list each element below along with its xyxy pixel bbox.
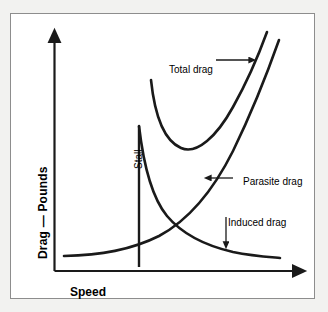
total-drag-label: Total drag [169,65,213,75]
parasite-drag-label: Parasite drag [243,177,302,187]
induced-drag-label: Induced drag [228,218,286,228]
y-axis-title: Drag — Pounds [37,166,49,259]
figure-frame: Total drag Parasite drag Induced drag St… [10,13,315,299]
figure-root: Total drag Parasite drag Induced drag St… [0,0,328,312]
stall-label: Stall [134,150,144,169]
drag-vs-speed-chart [11,14,314,298]
x-axis-title: Speed [70,286,106,298]
total-drag-curve [151,32,267,149]
